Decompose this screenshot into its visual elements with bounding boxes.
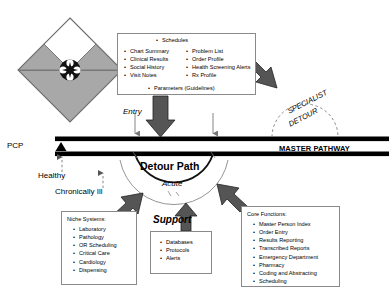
list-item: Protocols [160,246,193,254]
detour-path-label: Detour Path [140,161,200,172]
list-item: Dispensing [73,266,117,274]
acute-label: Acute [162,180,182,188]
list-item: Databases [160,238,193,246]
niche-systems-box: Niche Systems: Laboratory Pathology OR S… [61,211,137,285]
healthy-label: Healthy [38,172,65,180]
list-item: Critical Care [73,249,117,257]
data-box-left-list: Chart Summary Clinical Results Social Hi… [124,47,169,80]
list-item: Cardiology [73,258,117,266]
emr-care-pathway-diagram: Schedules Chart Summary Clinical Results… [0,0,392,304]
chronically-ill-label: Chronically Ill [55,188,103,196]
list-item: Visit Notes [124,71,169,79]
list-item: Chart Summary [124,47,169,55]
list-item: Emergency Department [253,253,318,261]
list-item: Rx Profile [186,71,250,79]
patient-state-dashed-arrows [62,157,103,188]
list-item: Master Person Index [253,220,318,228]
data-to-pathway-arrow [146,96,175,137]
niche-systems-title: Niche Systems: [67,216,106,222]
list-item: Social History [124,63,169,71]
list-item: Results Reporting [253,236,318,244]
support-label: Support [153,215,191,226]
niche-systems-list: Laboratory Pathology OR Scheduling Criti… [73,225,117,274]
list-item: Order Entry [253,228,318,236]
list-item: Order Profile [186,55,250,63]
list-item: Coding and Abstracting [253,269,318,277]
diamond-emblem [18,18,122,122]
list-item: Transcribed Reports [253,244,318,252]
clinical-data-box: Schedules Chart Summary Clinical Results… [117,33,256,95]
support-tools-box: Databases Protocols Alerts [150,231,212,274]
list-item: Laboratory [73,225,117,233]
list-item: Scheduling [253,277,318,285]
list-item: Clinical Results [124,55,169,63]
list-item: Pathology [73,233,117,241]
center-emblem-icon [59,59,80,80]
entry-thin-arrows [135,113,213,134]
support-tools-list: Databases Protocols Alerts [160,238,193,262]
pathway-start-marker [56,142,67,151]
entry-label: Entry [123,108,142,116]
list-item: Alerts [160,254,193,262]
list-item: Pharmacy [253,261,318,269]
core-functions-title: Core Functions: [247,211,286,217]
data-box-schedules: Schedules [156,37,188,43]
core-functions-box: Core Functions: Master Person Index Orde… [241,206,340,287]
pcp-label: PCP [7,142,23,150]
master-pathway-label: MASTER PATHWAY [279,145,350,153]
data-box-parameters: Parameters (Guidelines) [148,85,215,91]
core-functions-list: Master Person Index Order Entry Results … [253,220,318,285]
data-box-right-list: Problem List Order Profile Health Screen… [186,47,250,80]
list-item: Problem List [186,47,250,55]
list-item: OR Scheduling [73,241,117,249]
list-item: Health Screening Alerts [186,63,250,71]
